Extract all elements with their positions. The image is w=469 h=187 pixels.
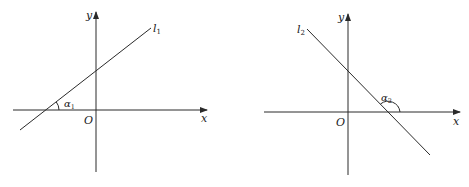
angle-alpha1-label: α1 bbox=[64, 98, 75, 111]
diagram-canvas: y x O l1 α1 y x O l2 α2 bbox=[0, 0, 469, 187]
right-y-label: y bbox=[337, 11, 345, 24]
right-x-label: x bbox=[453, 115, 460, 128]
left-figure: y x O l1 α1 bbox=[13, 9, 208, 172]
angle-alpha1-subscript: 1 bbox=[71, 103, 75, 111]
line-l2-label: l2 bbox=[297, 23, 305, 37]
line-l2 bbox=[307, 29, 430, 155]
left-x-label: x bbox=[201, 112, 208, 125]
right-origin-label: O bbox=[336, 116, 345, 129]
line-l1-label: l1 bbox=[153, 22, 161, 36]
right-figure: y x O l2 α2 bbox=[264, 11, 460, 175]
line-l1-subscript: 1 bbox=[157, 28, 161, 36]
angle-alpha2-subscript: 2 bbox=[388, 97, 392, 105]
left-y-label: y bbox=[85, 9, 93, 22]
angle-arc-alpha1 bbox=[56, 102, 59, 110]
left-origin-label: O bbox=[84, 114, 93, 127]
line-l2-subscript: 2 bbox=[301, 29, 305, 37]
